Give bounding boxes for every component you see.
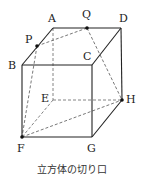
vertex-label-E: E [41,93,49,104]
edge-PQ [37,28,87,46]
diagram-caption: 立方体の切り口 [0,161,144,176]
vertex-label-C: C [83,51,91,62]
point-F [20,135,24,139]
marked-points [20,26,124,139]
vertex-label-A: A [48,13,56,24]
vertex-label-H: H [126,94,136,105]
point-P [35,44,39,48]
edge-PF [22,46,37,137]
point-H [120,98,124,102]
vertex-label-Q: Q [82,9,91,20]
cube-diagram [0,0,144,184]
point-Q [85,26,89,30]
vertex-label-F: F [17,143,25,154]
vertex-label-G: G [87,143,96,154]
edge-DH [121,28,122,100]
vertex-label-D: D [119,13,128,24]
vertex-label-P: P [25,34,32,45]
vertex-label-B: B [8,60,16,71]
